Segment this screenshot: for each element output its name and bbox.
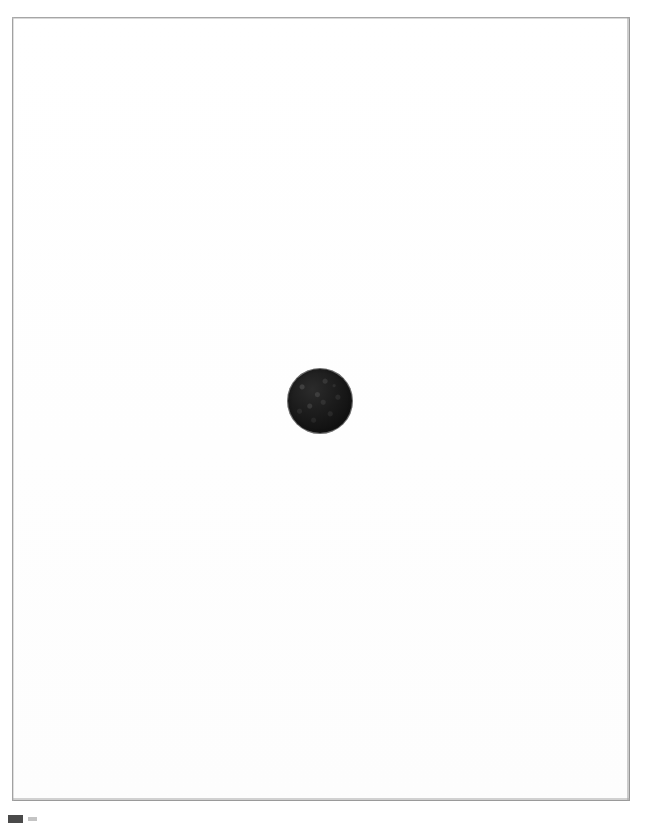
page-frame-top-rule bbox=[12, 17, 630, 19]
scanned-page-root bbox=[0, 0, 647, 823]
page-frame-left-rule bbox=[12, 17, 14, 801]
page-frame-bottom-rule bbox=[12, 798, 630, 801]
circular-blot-figure bbox=[288, 369, 352, 433]
scan-edge-smudge-artifact bbox=[28, 817, 37, 821]
scan-edge-bar-artifact bbox=[8, 815, 23, 823]
circular-blot-fill bbox=[288, 369, 352, 433]
page-frame-right-rule bbox=[627, 17, 630, 801]
